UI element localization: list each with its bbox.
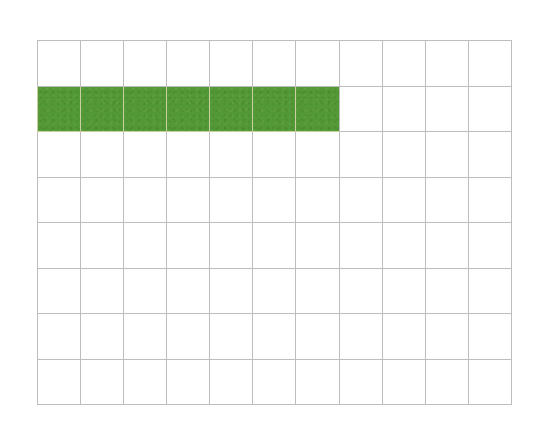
grid-cell-empty[interactable] (81, 177, 124, 223)
grid-cell-empty[interactable] (210, 268, 253, 314)
grid-cell-empty[interactable] (210, 223, 253, 269)
grid-cell-empty[interactable] (382, 41, 425, 87)
grid-cell-empty[interactable] (296, 268, 339, 314)
grid-cell-empty[interactable] (167, 177, 210, 223)
grid-row (38, 41, 512, 87)
grid-cell-empty[interactable] (468, 223, 511, 269)
grid-cell-empty[interactable] (124, 359, 167, 405)
grid-cell-empty[interactable] (382, 132, 425, 178)
grid-cell-empty[interactable] (425, 177, 468, 223)
grid-cell-empty[interactable] (124, 41, 167, 87)
grid-cell-empty[interactable] (382, 268, 425, 314)
grid-cell-empty[interactable] (339, 359, 382, 405)
grid-cell-empty[interactable] (468, 41, 511, 87)
grid-cell-empty[interactable] (253, 41, 296, 87)
grid-cell-empty[interactable] (124, 177, 167, 223)
grid-cell-filled[interactable] (81, 86, 124, 132)
grid-cell-empty[interactable] (38, 177, 81, 223)
grid-cell-empty[interactable] (167, 41, 210, 87)
grid-cell-empty[interactable] (124, 223, 167, 269)
grid-cell-empty[interactable] (38, 223, 81, 269)
grid-cell-empty[interactable] (382, 359, 425, 405)
grid-row (38, 359, 512, 405)
grid-cell-empty[interactable] (296, 223, 339, 269)
grid-cell-empty[interactable] (167, 223, 210, 269)
grid-cell-empty[interactable] (81, 359, 124, 405)
grid-cell-empty[interactable] (425, 268, 468, 314)
grid-cell-empty[interactable] (253, 223, 296, 269)
grid-cell-empty[interactable] (425, 132, 468, 178)
grid-cell-empty[interactable] (81, 132, 124, 178)
grid-cell-empty[interactable] (425, 41, 468, 87)
grid-cell-empty[interactable] (167, 268, 210, 314)
grid-row (38, 314, 512, 360)
grid-body (38, 41, 512, 405)
grid-cell-empty[interactable] (468, 359, 511, 405)
grid-row (38, 132, 512, 178)
grid-cell-empty[interactable] (210, 132, 253, 178)
grid-container (37, 40, 512, 405)
grid-cell-empty[interactable] (38, 314, 81, 360)
grid-cell-empty[interactable] (253, 132, 296, 178)
grid-cell-empty[interactable] (339, 86, 382, 132)
grid-cell-empty[interactable] (425, 314, 468, 360)
grid-cell-filled[interactable] (253, 86, 296, 132)
grid-cell-empty[interactable] (339, 132, 382, 178)
grid-cell-empty[interactable] (382, 177, 425, 223)
grid-cell-empty[interactable] (253, 268, 296, 314)
grid-cell-empty[interactable] (81, 314, 124, 360)
grid-cell-empty[interactable] (210, 359, 253, 405)
grid-row (38, 86, 512, 132)
grid-cell-empty[interactable] (296, 359, 339, 405)
grid-cell-empty[interactable] (339, 177, 382, 223)
grid-cell-empty[interactable] (167, 314, 210, 360)
grid-cell-empty[interactable] (425, 86, 468, 132)
fraction-grid[interactable] (37, 40, 512, 405)
grid-cell-empty[interactable] (339, 41, 382, 87)
grid-cell-filled[interactable] (296, 86, 339, 132)
grid-cell-empty[interactable] (81, 223, 124, 269)
grid-cell-empty[interactable] (81, 268, 124, 314)
grid-cell-empty[interactable] (468, 86, 511, 132)
grid-row (38, 268, 512, 314)
grid-cell-empty[interactable] (38, 359, 81, 405)
grid-cell-empty[interactable] (382, 223, 425, 269)
grid-cell-filled[interactable] (38, 86, 81, 132)
grid-row (38, 223, 512, 269)
grid-cell-empty[interactable] (124, 132, 167, 178)
grid-cell-empty[interactable] (253, 177, 296, 223)
grid-cell-empty[interactable] (210, 177, 253, 223)
grid-cell-empty[interactable] (468, 268, 511, 314)
grid-row (38, 177, 512, 223)
grid-cell-filled[interactable] (210, 86, 253, 132)
grid-cell-empty[interactable] (210, 314, 253, 360)
grid-cell-empty[interactable] (339, 223, 382, 269)
grid-cell-empty[interactable] (38, 41, 81, 87)
grid-cell-empty[interactable] (339, 268, 382, 314)
grid-cell-filled[interactable] (124, 86, 167, 132)
grid-cell-empty[interactable] (38, 268, 81, 314)
grid-cell-empty[interactable] (339, 314, 382, 360)
grid-cell-empty[interactable] (296, 314, 339, 360)
grid-cell-empty[interactable] (167, 359, 210, 405)
grid-cell-empty[interactable] (81, 41, 124, 87)
grid-cell-empty[interactable] (253, 314, 296, 360)
grid-cell-empty[interactable] (468, 314, 511, 360)
grid-cell-empty[interactable] (468, 132, 511, 178)
grid-cell-empty[interactable] (382, 86, 425, 132)
grid-cell-empty[interactable] (468, 177, 511, 223)
grid-cell-empty[interactable] (124, 268, 167, 314)
grid-cell-empty[interactable] (167, 132, 210, 178)
grid-cell-empty[interactable] (425, 223, 468, 269)
grid-cell-empty[interactable] (425, 359, 468, 405)
grid-cell-empty[interactable] (296, 132, 339, 178)
grid-cell-empty[interactable] (253, 359, 296, 405)
grid-cell-empty[interactable] (296, 41, 339, 87)
grid-cell-empty[interactable] (296, 177, 339, 223)
grid-cell-filled[interactable] (167, 86, 210, 132)
grid-cell-empty[interactable] (124, 314, 167, 360)
grid-cell-empty[interactable] (210, 41, 253, 87)
canvas-stage (0, 0, 546, 432)
grid-cell-empty[interactable] (38, 132, 81, 178)
grid-cell-empty[interactable] (382, 314, 425, 360)
